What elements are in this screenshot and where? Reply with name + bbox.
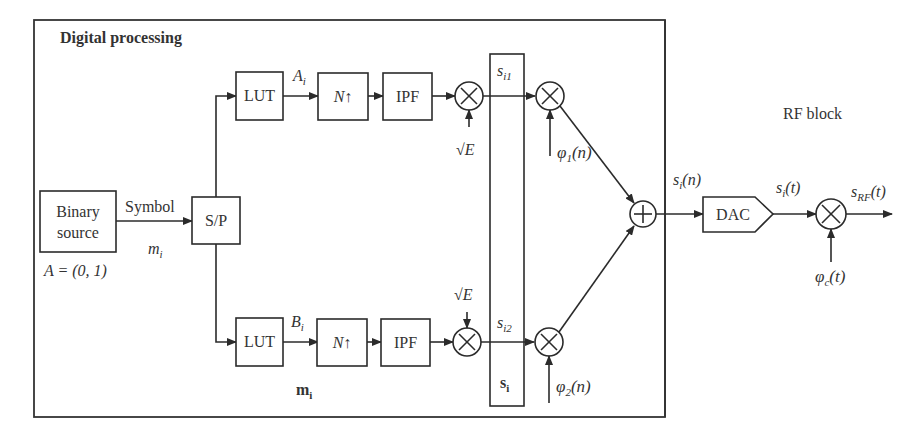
sum-out-label: si(n) [673, 171, 701, 191]
binary-source-line1: Binary [56, 203, 100, 221]
top-lut-block: LUT [236, 72, 283, 120]
sp-top-branch [216, 96, 236, 197]
svg-text:LUT: LUT [244, 333, 275, 350]
top-var-label: Ai [292, 67, 306, 87]
svg-text:LUT: LUT [244, 87, 275, 104]
bottom-to-sum-line [559, 226, 634, 332]
binary-source-line2: source [57, 224, 99, 241]
svg-text:IPF: IPF [394, 334, 417, 351]
sp-bottom-branch [216, 244, 236, 342]
bottom-var-label: Bi [291, 313, 304, 333]
bottom-gain-mixer [453, 328, 481, 356]
bottom-lut-block: LUT [236, 318, 283, 366]
serial-to-parallel-block: S/P [192, 197, 240, 244]
bottom-carrier-mixer [535, 328, 563, 356]
bottom-gain-label: √E [454, 286, 473, 303]
analog-signal-label: si(t) [776, 179, 800, 199]
dac-block: DAC [703, 197, 773, 232]
top-carrier-label: φ1(n) [557, 143, 592, 164]
sum-node [630, 201, 656, 227]
svg-text:IPF: IPF [396, 88, 419, 105]
binary-source-block: Binary source [40, 191, 116, 252]
svg-text:DAC: DAC [716, 206, 750, 223]
symbol-var: mi [148, 240, 163, 260]
rf-output-label: sRF(t) [851, 183, 886, 203]
top-upsample-block: N↑ [318, 73, 368, 120]
top-carrier-mixer [536, 82, 564, 110]
bottom-upsample-block: N↑ [317, 319, 367, 366]
vector-s-label: si [500, 374, 509, 394]
vector-m-label: mi [296, 381, 312, 401]
svg-text:N↑: N↑ [332, 334, 352, 351]
svg-text:N↑: N↑ [333, 88, 353, 105]
symbol-label: Symbol [125, 198, 175, 216]
top-out-label: si1 [497, 62, 512, 82]
rf-carrier-label: φc(t) [815, 267, 846, 288]
bottom-ipf-block: IPF [381, 319, 430, 366]
top-gain-mixer [455, 82, 483, 110]
top-ipf-block: IPF [383, 73, 432, 120]
alphabet-label: A = (0, 1) [43, 262, 107, 280]
digital-processing-title: Digital processing [60, 29, 182, 47]
block-diagram: Digital processing RF block Binary sourc… [0, 0, 918, 441]
rf-mixer [816, 199, 846, 229]
vector-s-bar [490, 54, 524, 406]
top-gain-label: √E [456, 141, 475, 158]
rf-block-title: RF block [783, 105, 842, 122]
sp-label: S/P [205, 212, 227, 229]
bottom-carrier-label: φ2(n) [556, 377, 591, 398]
bottom-out-label: si2 [497, 314, 512, 334]
